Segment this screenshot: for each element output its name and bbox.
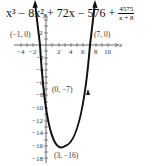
point-label-3-neg16: (3, −16) [54, 151, 79, 160]
curve-arrow-left-icon [33, 0, 38, 8]
plot-area: x y −4 −2 2 4 6 8 10 [0, 0, 158, 166]
svg-text:10: 10 [104, 48, 112, 56]
function-curve [35, 3, 95, 148]
point-label-0-neg7: (0, −7) [52, 85, 73, 94]
svg-text:−16: −16 [32, 142, 43, 150]
point-label-neg1-0: (−1, 0) [10, 30, 31, 39]
point-label-7-0: (7, 0) [94, 30, 111, 39]
svg-text:−18: −18 [32, 155, 43, 163]
svg-text:−4: −4 [17, 48, 25, 56]
svg-text:−8: −8 [36, 91, 44, 99]
svg-text:−14: −14 [32, 129, 43, 137]
curve-direction-arrow-right-icon [86, 89, 90, 95]
svg-text:8: 8 [94, 48, 98, 56]
x-tick-labels: −4 −2 2 4 6 8 10 [17, 48, 112, 56]
curve-arrow-right-icon [92, 0, 97, 8]
svg-text:6: 6 [81, 48, 85, 56]
svg-text:−12: −12 [32, 117, 43, 125]
svg-text:2: 2 [57, 48, 61, 56]
svg-text:−10: −10 [32, 104, 43, 112]
svg-text:4: 4 [69, 48, 73, 56]
x-axis-name: x [118, 41, 123, 49]
